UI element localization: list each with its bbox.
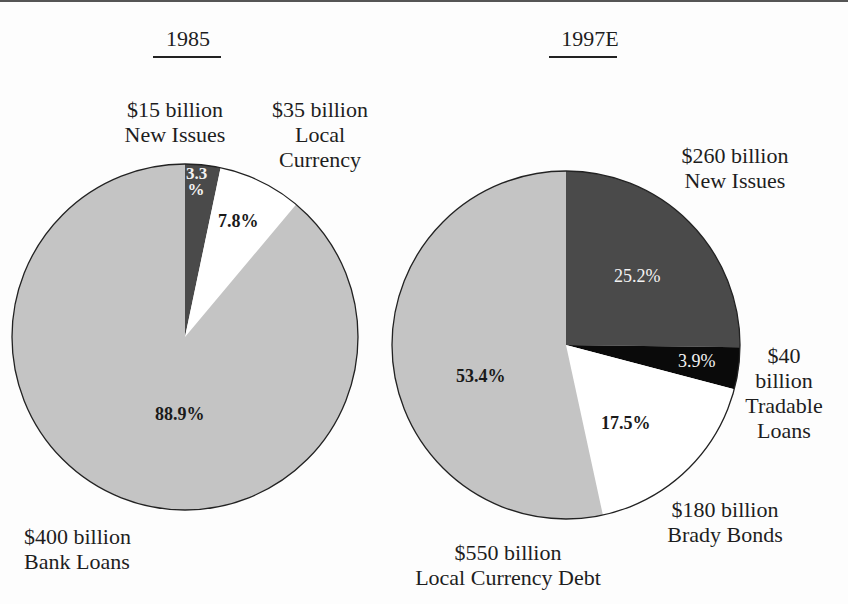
label-amount: $180 billion xyxy=(645,497,805,522)
pct-1997e-new-issues: 25.2% xyxy=(614,266,661,287)
pie-slice-new-issues xyxy=(566,171,740,347)
pct-1997e-local-currency-debt: 53.4% xyxy=(456,366,506,387)
pie-1985 xyxy=(12,164,358,510)
pct-1985-bank-loans: 88.9% xyxy=(155,404,205,425)
pct-1985-new-issues: 3.3 % xyxy=(186,166,206,198)
label-category: Brady Bonds xyxy=(645,522,805,547)
label-amount: $35 billion xyxy=(250,97,390,122)
label-amount: $550 billion xyxy=(398,540,618,565)
pct-1997e-brady-bonds: 17.5% xyxy=(601,413,651,434)
label-category: Loans xyxy=(734,418,834,443)
label-1985-local-currency: $35 billion Local Currency xyxy=(250,97,390,172)
label-category: Local Currency Debt xyxy=(398,565,618,590)
pct-1997e-tradable-loans: 3.9% xyxy=(678,351,716,372)
pct-1985-local-currency: 7.8% xyxy=(218,211,259,232)
label-category: Tradable xyxy=(734,393,834,418)
label-category: New Issues xyxy=(100,122,250,147)
label-amount: $40 xyxy=(734,343,834,368)
label-amount: $260 billion xyxy=(660,143,810,168)
label-1985-bank-loans: $400 billion Bank Loans xyxy=(24,524,131,574)
label-1997e-local-currency-debt: $550 billion Local Currency Debt xyxy=(398,540,618,590)
label-amount: $400 billion xyxy=(24,524,131,549)
pie-1997e xyxy=(392,171,740,519)
label-1985-new-issues: $15 billion New Issues xyxy=(100,97,250,147)
label-category: Local xyxy=(250,122,390,147)
label-1997e-new-issues: $260 billion New Issues xyxy=(660,143,810,193)
label-category: Bank Loans xyxy=(24,549,131,574)
label-1997e-brady-bonds: $180 billion Brady Bonds xyxy=(645,497,805,547)
label-category: Currency xyxy=(250,147,390,172)
pct-symbol: % xyxy=(186,182,206,198)
label-amount: $15 billion xyxy=(100,97,250,122)
label-category: New Issues xyxy=(660,168,810,193)
label-amount-unit: billion xyxy=(734,368,834,393)
pie-slice-bank-loans xyxy=(12,164,358,510)
label-1997e-tradable-loans: $40 billion Tradable Loans xyxy=(734,343,834,443)
